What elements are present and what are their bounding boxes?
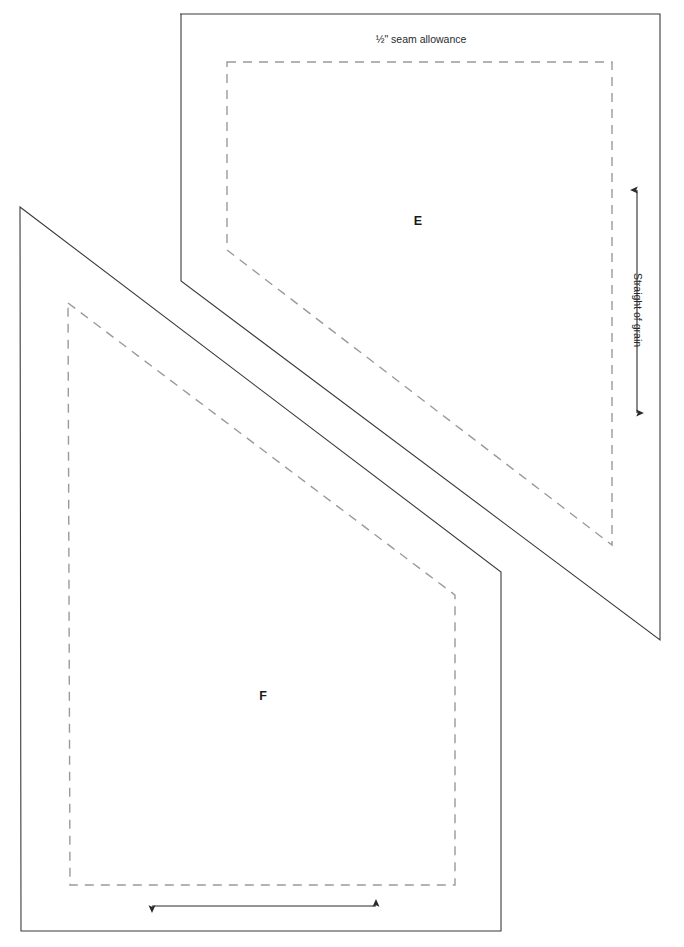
piece-e-cut-line bbox=[180, 14, 660, 640]
seam-allowance-label: ½" seam allowance bbox=[376, 33, 467, 45]
piece-e-stitch-line bbox=[227, 62, 612, 545]
pattern-sheet: ½" seam allowance Straight of grain E F bbox=[0, 0, 684, 947]
piece-label-f: F bbox=[259, 689, 267, 703]
straight-of-grain-label: Straight of grain bbox=[632, 273, 644, 347]
piece-label-e: E bbox=[414, 214, 422, 228]
piece-f-cut-line bbox=[20, 207, 501, 931]
pattern-drawing: ½" seam allowance Straight of grain E F bbox=[0, 0, 684, 947]
